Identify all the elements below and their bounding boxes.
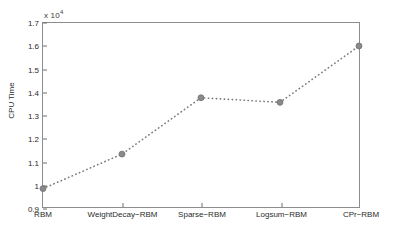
y-axis-tick-label: 1.2 (28, 135, 39, 144)
y-axis-tick-label: 1.3 (28, 112, 39, 121)
x-axis-tick-label: CPr−RBM (343, 210, 379, 219)
y-axis-exponent-power: 4 (60, 9, 64, 15)
y-axis-tick-label: 1.6 (28, 42, 39, 51)
y-axis-tick-label: 1.4 (28, 88, 39, 97)
y-axis-tick-mark (43, 46, 47, 47)
x-axis-tick-mark (281, 203, 282, 207)
x-axis-tick-mark (122, 203, 123, 207)
data-point-marker (40, 186, 46, 192)
y-axis-tick-label: 1.1 (28, 158, 39, 167)
y-axis-tick-mark (43, 116, 47, 117)
x-axis-tick-label: RBM (34, 210, 52, 219)
y-axis-exponent-label: x 104 (44, 9, 63, 20)
y-axis-tick-mark (43, 92, 47, 93)
y-axis-tick-mark (43, 162, 47, 163)
x-axis-tick-mark (202, 203, 203, 207)
x-axis-tick-label: WeightDecay−RBM (88, 210, 158, 219)
data-point-marker (356, 43, 362, 49)
y-axis-tick-label: 1.7 (28, 19, 39, 28)
x-axis-tick-label: Sparse−RBM (178, 210, 226, 219)
series-line-dotted (43, 23, 359, 207)
y-axis-exponent-mantissa: x 10 (44, 11, 60, 20)
data-point-marker (119, 151, 125, 157)
plot-area: 0.911.11.21.31.41.51.61.7RBMWeightDecay−… (42, 22, 360, 208)
y-axis-tick-label: 1 (35, 181, 39, 190)
y-axis-tick-mark (43, 23, 47, 24)
y-axis-tick-label: 1.5 (28, 65, 39, 74)
y-axis-title: CPU Time (7, 71, 16, 131)
series-polyline (43, 46, 359, 189)
y-axis-tick-mark (43, 139, 47, 140)
data-point-marker (198, 95, 204, 101)
x-axis-tick-label: Logsum−RBM (256, 210, 307, 219)
y-axis-tick-mark (43, 69, 47, 70)
cpu-time-chart-figure: x 104 CPU Time 0.911.11.21.31.41.51.61.7… (0, 0, 395, 242)
data-point-marker (277, 99, 283, 105)
y-axis-tick-mark (43, 185, 47, 186)
